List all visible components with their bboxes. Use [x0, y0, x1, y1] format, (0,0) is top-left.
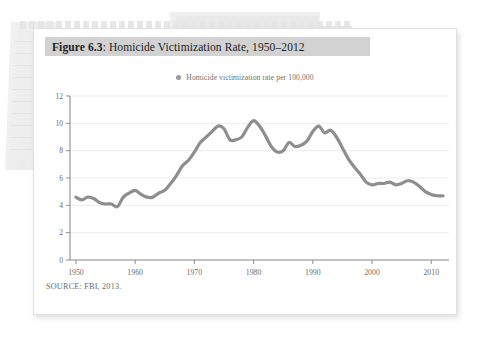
x-axis-tick-label: 1970: [187, 268, 203, 277]
figure-card: Figure 6.3: Homicide Victimization Rate,…: [33, 28, 457, 315]
page-title: Figure 6.3: Homicide Victimization Rate,…: [45, 41, 305, 53]
figure-number-label: Figure 6.3: [52, 41, 103, 53]
y-axis-tick-label: 6: [59, 174, 63, 183]
series-line-homicide-rate: [76, 121, 443, 207]
source-note: SOURCE: FBI, 2013.: [46, 282, 121, 291]
y-axis-tick-label: 2: [59, 228, 63, 237]
x-axis-tick-label: 2000: [364, 268, 380, 277]
y-axis-tick-label: 0: [59, 256, 63, 265]
chart-plot-area: 0246810121950196019701980199020002010: [34, 85, 456, 290]
figure-title-label: Homicide Victimization Rate, 1950–2012: [109, 41, 305, 53]
y-axis-tick-label: 10: [55, 119, 63, 128]
legend-dot-icon: [176, 75, 181, 80]
y-axis-tick-label: 12: [55, 92, 63, 101]
x-axis-tick-label: 1990: [305, 268, 321, 277]
line-chart: 0246810121950196019701980199020002010: [34, 85, 456, 290]
x-axis-tick-label: 1950: [68, 268, 84, 277]
legend-item-label: Homicide victimization rate per 100,000: [186, 73, 313, 82]
x-axis-tick-label: 2010: [423, 268, 439, 277]
x-axis-tick-label: 1960: [127, 268, 143, 277]
chart-legend: Homicide victimization rate per 100,000: [34, 73, 456, 82]
y-axis-tick-label: 8: [59, 146, 63, 155]
figure-title-band: Figure 6.3: Homicide Victimization Rate,…: [45, 37, 370, 56]
figure-title-separator: :: [103, 41, 106, 53]
x-axis-tick-label: 1980: [246, 268, 262, 277]
y-axis-tick-label: 4: [59, 201, 63, 210]
